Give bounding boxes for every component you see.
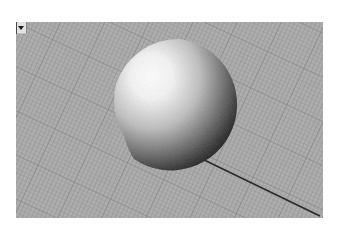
viewport-perspective[interactable]	[16, 22, 323, 218]
chevron-down-icon	[18, 26, 24, 30]
menu-button-edge	[16, 22, 17, 34]
scene-canvas[interactable]	[16, 22, 323, 218]
viewport-menu-button[interactable]	[16, 22, 27, 34]
